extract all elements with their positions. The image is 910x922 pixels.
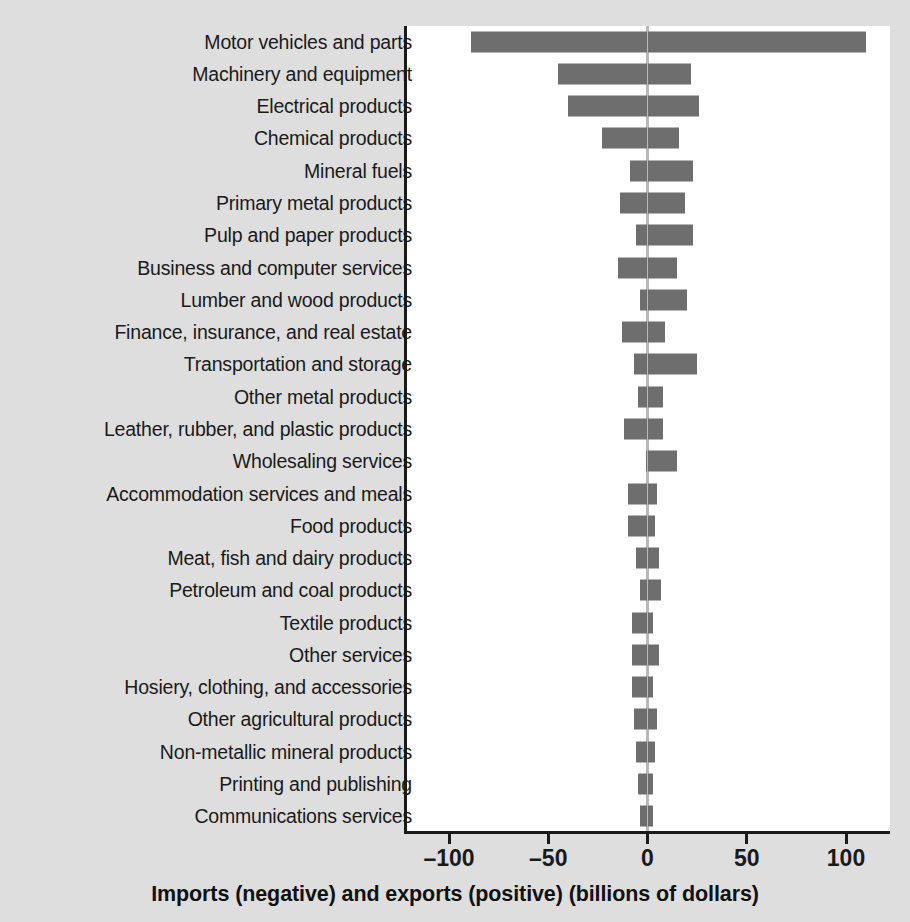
- bar-import: [618, 257, 648, 278]
- bar-row: Primary metal products: [0, 187, 910, 218]
- category-label: Communications services: [194, 805, 412, 828]
- x-axis-title: Imports (negative) and exports (positive…: [0, 882, 910, 907]
- x-tick-mark: [646, 833, 649, 844]
- bar-row: Meat, fish and dairy products: [0, 542, 910, 573]
- bar-export: [648, 386, 664, 407]
- bar-export: [648, 644, 660, 665]
- category-label: Other metal products: [234, 385, 412, 408]
- bar-import: [640, 289, 648, 310]
- bar-export: [648, 806, 654, 827]
- bar-export: [648, 709, 658, 730]
- category-label: Finance, insurance, and real estate: [114, 321, 412, 344]
- x-tick-mark: [547, 833, 550, 844]
- bar-row: Finance, insurance, and real estate: [0, 317, 910, 348]
- bar-import: [632, 677, 648, 698]
- bar-export: [648, 257, 678, 278]
- category-label: Textile products: [280, 611, 412, 634]
- category-label: Business and computer services: [137, 256, 412, 279]
- bar-rows-container: Motor vehicles and partsMachinery and eq…: [0, 26, 910, 833]
- category-label: Hosiery, clothing, and accessories: [124, 676, 412, 699]
- bar-row: Leather, rubber, and plastic products: [0, 413, 910, 444]
- bar-row: Food products: [0, 510, 910, 541]
- category-label: Machinery and equipment: [192, 62, 412, 85]
- category-label: Food products: [290, 514, 412, 537]
- x-tick-label: 50: [734, 845, 760, 872]
- bar-row: Business and computer services: [0, 252, 910, 283]
- bar-export: [648, 354, 698, 375]
- bar-import: [632, 612, 648, 633]
- bar-import: [628, 515, 648, 536]
- category-label: Primary metal products: [216, 191, 412, 214]
- x-tick-label: –50: [529, 845, 567, 872]
- x-tick-mark: [448, 833, 451, 844]
- bar-row: Mineral fuels: [0, 155, 910, 186]
- bar-export: [648, 160, 694, 181]
- bar-row: Hosiery, clothing, and accessories: [0, 672, 910, 703]
- bar-import: [620, 192, 648, 213]
- bar-export: [648, 483, 658, 504]
- bar-export: [648, 677, 654, 698]
- category-label: Accommodation services and meals: [106, 482, 412, 505]
- bar-row: Petroleum and coal products: [0, 575, 910, 606]
- bar-import: [624, 418, 648, 439]
- category-label: Non-metallic mineral products: [160, 740, 412, 763]
- category-label: Petroleum and coal products: [169, 579, 412, 602]
- category-label: Mineral fuels: [304, 159, 412, 182]
- bar-export: [648, 515, 656, 536]
- bar-import: [636, 548, 648, 569]
- bar-export: [648, 580, 662, 601]
- bar-import: [634, 354, 648, 375]
- bar-import: [636, 225, 648, 246]
- bar-row: Transportation and storage: [0, 349, 910, 380]
- bar-export: [648, 322, 666, 343]
- category-label: Wholesaling services: [233, 450, 412, 473]
- bar-export: [648, 774, 654, 795]
- bar-export: [648, 612, 654, 633]
- bar-row: Wholesaling services: [0, 446, 910, 477]
- bar-export: [648, 192, 686, 213]
- bar-export: [648, 225, 694, 246]
- category-label: Motor vehicles and parts: [204, 30, 412, 53]
- bar-row: Printing and publishing: [0, 768, 910, 799]
- bar-row: Lumber and wood products: [0, 284, 910, 315]
- bar-export: [648, 31, 866, 52]
- x-tick-label: –100: [423, 845, 474, 872]
- bar-import: [638, 774, 648, 795]
- bar-export: [648, 289, 688, 310]
- bar-import: [632, 644, 648, 665]
- x-tick-label: 0: [641, 845, 654, 872]
- bar-export: [648, 128, 680, 149]
- category-label: Leather, rubber, and plastic products: [104, 417, 412, 440]
- category-label: Lumber and wood products: [180, 288, 412, 311]
- category-label: Printing and publishing: [219, 773, 412, 796]
- bar-row: Chemical products: [0, 123, 910, 154]
- chart-figure: Motor vehicles and partsMachinery and eq…: [0, 0, 910, 922]
- bar-row: Other metal products: [0, 381, 910, 412]
- x-tick-label: 100: [827, 845, 865, 872]
- x-tick-mark: [845, 833, 848, 844]
- bar-row: Other agricultural products: [0, 704, 910, 735]
- category-label: Transportation and storage: [184, 353, 412, 376]
- bar-import: [638, 386, 648, 407]
- bar-import: [634, 709, 648, 730]
- bar-import: [640, 580, 648, 601]
- x-tick-mark: [745, 833, 748, 844]
- bar-import: [471, 31, 648, 52]
- category-label: Other services: [289, 643, 412, 666]
- bar-row: Pulp and paper products: [0, 220, 910, 251]
- bar-row: Motor vehicles and parts: [0, 26, 910, 57]
- bar-row: Accommodation services and meals: [0, 478, 910, 509]
- bar-row: Textile products: [0, 607, 910, 638]
- bar-import: [628, 483, 648, 504]
- category-label: Electrical products: [256, 95, 412, 118]
- bar-row: Non-metallic mineral products: [0, 736, 910, 767]
- bar-export: [648, 548, 660, 569]
- bar-export: [648, 451, 678, 472]
- bar-import: [640, 806, 648, 827]
- bar-export: [648, 96, 700, 117]
- bar-row: Machinery and equipment: [0, 58, 910, 89]
- bar-import: [558, 63, 647, 84]
- bar-import: [602, 128, 648, 149]
- bar-export: [648, 418, 664, 439]
- bar-row: Electrical products: [0, 91, 910, 122]
